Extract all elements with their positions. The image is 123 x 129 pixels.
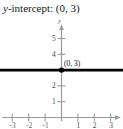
figure-title: y-intercept: (0, 3) (3, 2, 80, 15)
y-tick-label-5: 5 (52, 35, 56, 43)
y-axis-label: y (58, 18, 61, 25)
figure-title-text: -intercept: (0, 3) (8, 2, 80, 14)
x-tick-label-3: 3 (109, 122, 113, 129)
y-intercept-figure: y-intercept: (0, 3) (0, 0, 123, 129)
x-tick-label-neg2: -2 (26, 122, 32, 129)
x-tick-label-1: 1 (76, 122, 80, 129)
coordinate-plot: y 1 2 4 5 -3 -2 -1 1 2 3 (0, 3) (0, 18, 123, 129)
x-tick-label-neg1: -1 (42, 122, 48, 129)
x-tick-label-neg3: -3 (10, 122, 16, 129)
x-tick-label-2: 2 (93, 122, 97, 129)
y-tick-label-2: 2 (52, 82, 56, 90)
y-tick-label-1: 1 (52, 98, 56, 106)
plot-svg (0, 18, 123, 129)
y-intercept-point-marker (59, 68, 64, 73)
y-intercept-point-label: (0, 3) (64, 60, 80, 68)
y-tick-label-4: 4 (52, 51, 56, 59)
x-axis-arrowhead (115, 115, 121, 120)
